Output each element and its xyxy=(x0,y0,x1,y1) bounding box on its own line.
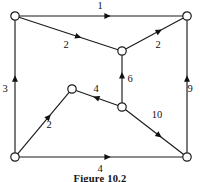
graph-node-top-left xyxy=(11,12,19,20)
arrow-head-icon-middle-horizontal xyxy=(93,96,100,102)
arrow-head-icon-bottom-edge xyxy=(104,154,110,160)
graph-node-center xyxy=(118,47,126,55)
edge-weight-lower-right-diagonal: 10 xyxy=(152,109,163,120)
arrow-head-icon-top-edge xyxy=(104,13,110,19)
arrow-heads-layer xyxy=(12,13,190,160)
edge-weight-labels-layer: 12263942104 xyxy=(2,0,192,174)
graph-node-top-right xyxy=(183,12,191,20)
arrow-head-icon-center-vertical xyxy=(119,72,125,78)
edge-weight-middle-horizontal: 4 xyxy=(93,83,99,94)
edge-weight-right-vertical: 9 xyxy=(187,83,192,94)
edge-weight-upper-left-diagonal: 2 xyxy=(63,39,68,50)
edge-weight-center-vertical: 6 xyxy=(127,73,132,84)
graph-node-lower-middle xyxy=(118,103,126,111)
graph-node-bottom-left xyxy=(11,153,19,161)
arrow-head-icon-left-vertical xyxy=(12,75,18,81)
arrow-head-icon-upper-left-diagonal xyxy=(74,33,81,39)
graph-node-peak xyxy=(68,85,76,93)
edge-weight-upper-right-diagonal: 2 xyxy=(155,39,160,50)
edge-weight-left-vertical: 3 xyxy=(2,83,7,94)
edges-layer xyxy=(15,16,187,157)
edge-lower-left-diagonal xyxy=(18,92,70,154)
arrow-head-icon-right-vertical xyxy=(184,75,190,81)
edge-weight-lower-left-diagonal: 2 xyxy=(46,119,51,130)
graph-node-bottom-right xyxy=(183,153,191,161)
figure-caption: Figure 10.2 xyxy=(0,173,200,182)
directed-weighted-graph: 12263942104 xyxy=(0,0,200,182)
figure-container: 12263942104 Figure 10.2 xyxy=(0,0,200,182)
edge-weight-top-edge: 1 xyxy=(97,0,102,11)
arrow-head-icon-lower-right-diagonal xyxy=(155,131,162,137)
